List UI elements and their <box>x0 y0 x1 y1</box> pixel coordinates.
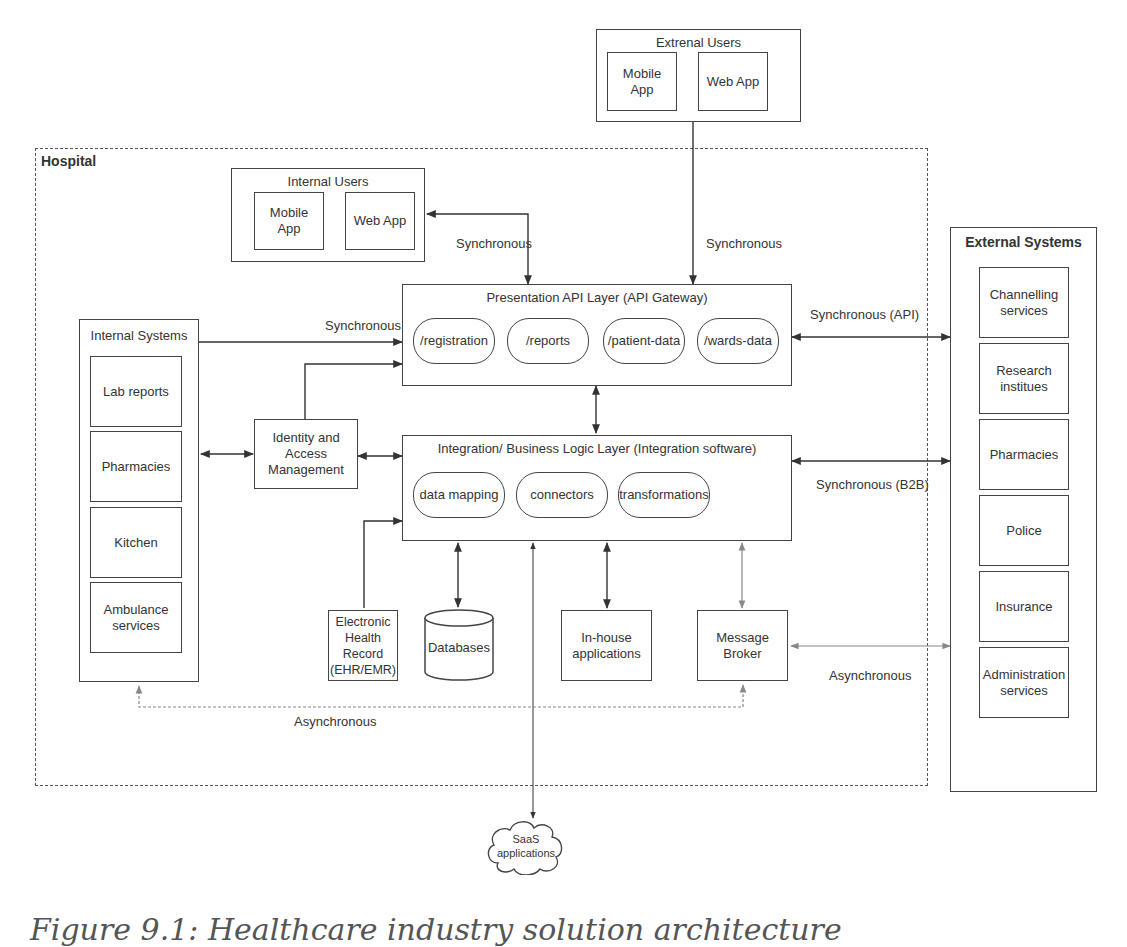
external-web-app[interactable]: Web App <box>698 52 768 111</box>
internal-mobile-app[interactable]: Mobile App <box>254 192 324 250</box>
external-systems-group: External Systems Channelling services Re… <box>950 227 1097 792</box>
label-internal-systems-sync: Synchronous <box>325 318 401 333</box>
label-external-b2b-sync: Synchronous (B2B) <box>816 477 929 492</box>
saas-label: SaaS applications <box>496 832 556 860</box>
message-broker[interactable]: Message Broker <box>697 610 788 681</box>
electronic-health-record[interactable]: Electronic Health Record (EHR/EMR) <box>328 610 398 681</box>
label-internal-users-sync: Synchronous <box>456 236 532 251</box>
external-system-channelling[interactable]: Channelling services <box>979 267 1069 338</box>
saas-applications[interactable]: SaaS applications <box>484 817 568 875</box>
component-connectors[interactable]: connectors <box>516 472 608 518</box>
presentation-api-layer: Presentation API Layer (API Gateway) /re… <box>402 284 792 386</box>
databases-label: Databases <box>428 640 490 656</box>
integration-layer-title: Integration/ Business Logic Layer (Integ… <box>403 441 791 456</box>
internal-systems-group: Internal Systems Lab reports Pharmacies … <box>79 319 199 682</box>
external-systems-title: External Systems <box>951 234 1096 250</box>
endpoint-registration[interactable]: /registration <box>413 318 495 364</box>
external-users-title: Extrenal Users <box>597 35 800 50</box>
figure-caption: Figure 9.1: Healthcare industry solution… <box>30 912 842 947</box>
identity-access-management[interactable]: Identity and Access Management <box>254 419 358 489</box>
endpoint-wards-data[interactable]: /wards-data <box>697 318 779 364</box>
external-system-pharmacies[interactable]: Pharmacies <box>979 419 1069 490</box>
external-users-group: Extrenal Users Mobile App Web App <box>596 29 801 122</box>
label-broker-async: Asynchronous <box>829 668 911 683</box>
endpoint-reports[interactable]: /reports <box>507 318 589 364</box>
inhouse-applications[interactable]: In-house applications <box>561 610 652 681</box>
label-internal-async: Asynchronous <box>294 714 376 729</box>
internal-system-ambulance[interactable]: Ambulance services <box>90 582 182 653</box>
external-system-research[interactable]: Research institues <box>979 343 1069 414</box>
databases[interactable]: Databases <box>424 609 494 681</box>
component-transformations[interactable]: transformations <box>618 472 710 518</box>
external-mobile-app[interactable]: Mobile App <box>607 52 677 111</box>
internal-web-app[interactable]: Web App <box>345 192 415 250</box>
internal-system-lab-reports[interactable]: Lab reports <box>90 356 182 427</box>
external-system-administration[interactable]: Administration services <box>979 647 1069 718</box>
internal-systems-title: Internal Systems <box>80 328 198 343</box>
internal-users-title: Internal Users <box>232 174 424 189</box>
internal-system-pharmacies[interactable]: Pharmacies <box>90 431 182 502</box>
endpoint-patient-data[interactable]: /patient-data <box>603 318 685 364</box>
external-system-insurance[interactable]: Insurance <box>979 571 1069 642</box>
internal-system-kitchen[interactable]: Kitchen <box>90 507 182 578</box>
component-data-mapping[interactable]: data mapping <box>413 472 505 518</box>
external-system-police[interactable]: Police <box>979 495 1069 566</box>
label-external-api-sync: Synchronous (API) <box>810 307 919 322</box>
label-external-users-sync: Synchronous <box>706 236 782 251</box>
presentation-layer-title: Presentation API Layer (API Gateway) <box>403 290 791 305</box>
internal-users-group: Internal Users Mobile App Web App <box>231 168 425 262</box>
integration-layer: Integration/ Business Logic Layer (Integ… <box>402 435 792 541</box>
